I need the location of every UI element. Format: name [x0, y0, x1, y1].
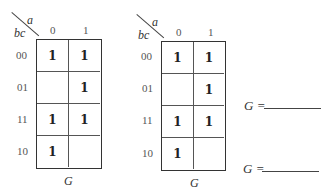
- row-label-01: 01: [17, 81, 28, 93]
- kmap-2: a bc 0 1 00 01 11 10 1 1 1 1 1 1 G: [124, 1, 244, 194]
- answer-blank-1[interactable]: [264, 108, 321, 109]
- row-variable: bc: [14, 26, 25, 41]
- cell-00-1: 1: [69, 40, 100, 72]
- row-label-11: 11: [17, 113, 28, 125]
- row-label-00: 00: [141, 50, 152, 62]
- cell-01-1: 1: [69, 72, 100, 104]
- cell-00-1: 1: [194, 42, 224, 74]
- col-label-1: 1: [83, 24, 89, 36]
- kmap-1: a bc 0 1 00 01 11 10 1 1 1 1 1 1 G: [0, 0, 120, 194]
- row-variable: bc: [138, 28, 149, 43]
- answer-label-1: G =: [244, 98, 265, 114]
- cell-10-0: 1: [162, 138, 194, 169]
- answer-label-2: G =: [243, 161, 264, 177]
- row-label-10: 10: [17, 145, 28, 157]
- col-label-0: 0: [176, 26, 182, 38]
- row-label-01: 01: [142, 82, 153, 94]
- cell-11-0: 1: [37, 104, 69, 136]
- kmap-grid: 1 1 1 1 1 1: [36, 39, 102, 169]
- cell-10-0: 1: [37, 136, 69, 167]
- cell-01-1: 1: [194, 74, 224, 106]
- cell-11-1: 1: [194, 106, 224, 138]
- row-label-10: 10: [142, 147, 153, 159]
- cell-11-0: 1: [162, 106, 194, 138]
- cell-00-0: 1: [37, 40, 69, 72]
- row-label-00: 00: [16, 49, 27, 61]
- row-label-11: 11: [142, 114, 153, 126]
- cell-01-0: [37, 72, 69, 104]
- cell-11-1: 1: [69, 104, 100, 136]
- cell-10-1: [69, 136, 100, 167]
- answer-blank-2[interactable]: [262, 171, 319, 172]
- col-variable: a: [27, 13, 33, 28]
- col-label-1: 1: [208, 26, 214, 38]
- cell-00-0: 1: [162, 42, 194, 74]
- function-label: G: [190, 176, 199, 191]
- function-label: G: [64, 174, 73, 189]
- kmap-grid: 1 1 1 1 1 1: [161, 41, 226, 171]
- col-label-0: 0: [50, 24, 56, 36]
- cell-10-1: [194, 138, 224, 169]
- col-variable: a: [152, 15, 158, 30]
- cell-01-0: [162, 74, 194, 106]
